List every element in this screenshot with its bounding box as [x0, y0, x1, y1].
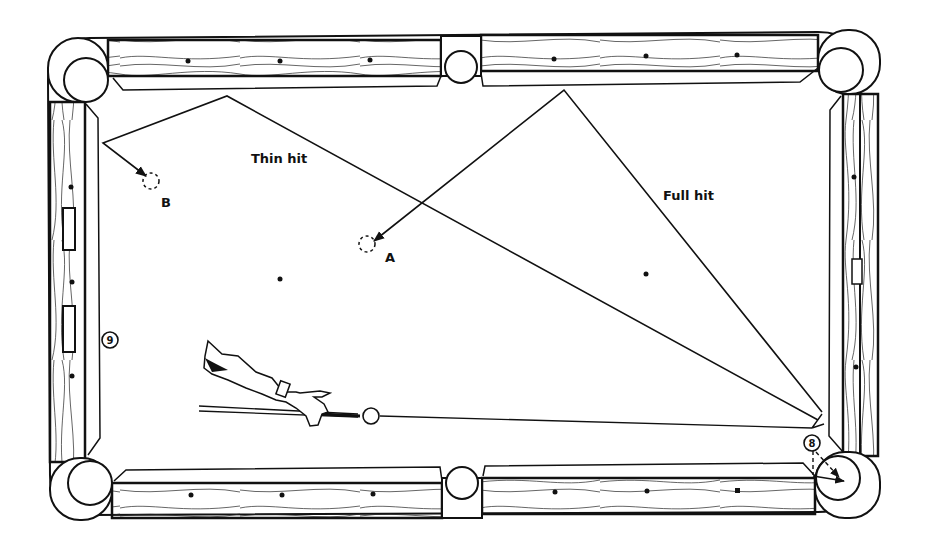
top-rail-left	[108, 40, 441, 90]
full-hit-path	[374, 90, 822, 412]
bottom-rail-right	[482, 463, 815, 514]
pocket-top-middle	[441, 36, 481, 83]
head-spot	[278, 277, 283, 282]
label-a: A	[385, 250, 395, 265]
pocket-bottom-right	[815, 452, 880, 518]
label-b: B	[161, 195, 171, 210]
label-full-hit: Full hit	[663, 188, 714, 203]
pocket-bottom-middle	[442, 467, 482, 518]
table-frame	[48, 32, 860, 515]
eight-ball: 8	[804, 435, 820, 451]
pocket-top-right	[818, 30, 880, 94]
svg-text:9: 9	[107, 335, 114, 346]
pocket-bottom-left	[50, 458, 112, 520]
label-thin-hit: Thin hit	[251, 151, 307, 166]
ghost-ball-b	[143, 173, 159, 189]
left-rail	[50, 102, 100, 462]
nine-ball: 9	[102, 332, 118, 348]
svg-text:8: 8	[809, 438, 816, 449]
right-rail	[829, 94, 878, 456]
foot-spot	[644, 272, 649, 277]
ghost-ball-a	[359, 236, 375, 252]
cue-ball	[363, 408, 379, 424]
top-rail-right	[481, 35, 818, 86]
pool-table-diagram: Thin hit Full hit B A 9 8	[0, 0, 925, 550]
bottom-rail-left	[112, 467, 442, 518]
cue-stick	[199, 406, 360, 417]
cue-ball-path	[380, 414, 824, 428]
pocket-top-left	[48, 38, 108, 102]
